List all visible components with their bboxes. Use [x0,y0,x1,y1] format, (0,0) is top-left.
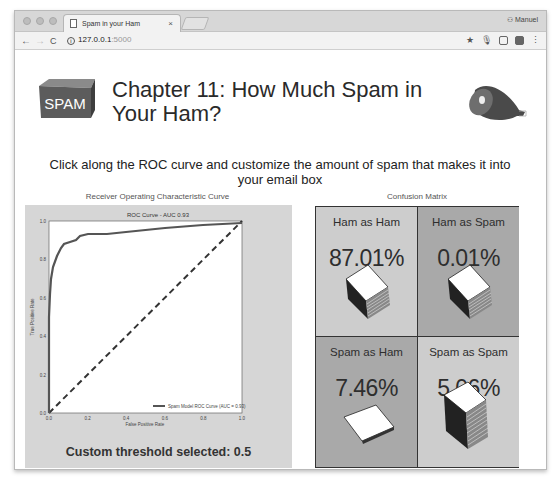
svg-text:False Positive Rate: False Positive Rate [126,422,165,427]
svg-text:0.6: 0.6 [162,416,169,421]
svg-text:0.6: 0.6 [40,296,47,301]
email-icon [316,337,418,467]
minimize-window-button[interactable] [36,17,44,25]
svg-text:0.0: 0.0 [46,416,53,421]
page-icon [70,19,77,28]
roc-caption: Receiver Operating Characteristic Curve [25,192,290,201]
email-stack-icon [316,207,418,337]
page-title: Chapter 11: How Much Spam in Your Ham? [112,78,442,126]
cell-ham-as-ham: Ham as Ham 87.01% [316,207,418,337]
forward-button[interactable]: → [35,35,45,46]
roc-chart[interactable]: ROC Curve - AUC 0.93 0.0 0.2 0.4 0.6 0.8… [25,205,292,440]
star-icon[interactable]: ★ [466,35,474,45]
tab-bar: Spam in your Ham × ⚇ Manuel [15,11,546,32]
cell-spam-as-spam: Spam as Spam 5.06% [418,337,519,467]
browser-toolbar: ← → C i127.0.0.1:5000 ★ 🎙︎ ⋮ [15,32,546,50]
ham-icon [467,80,527,124]
toolbar-icons: ★ 🎙︎ ⋮ [466,35,540,45]
instructions-text: Click along the ROC curve and customize … [45,157,515,187]
svg-text:ROC Curve - AUC 0.93: ROC Curve - AUC 0.93 [127,212,190,218]
info-icon[interactable]: i [67,37,75,45]
roc-panel[interactable]: ROC Curve - AUC 0.93 0.0 0.2 0.4 0.6 0.8… [25,205,292,468]
back-button[interactable]: ← [21,35,31,46]
extension-icon[interactable] [499,36,508,45]
browser-window: Spam in your Ham × ⚇ Manuel ← → C i127.0… [14,10,547,470]
maximize-window-button[interactable] [49,17,57,25]
close-window-button[interactable] [23,17,31,25]
profile-button[interactable]: ⚇ Manuel [507,16,538,24]
new-tab-button[interactable] [181,17,210,30]
svg-text:1.0: 1.0 [40,219,47,224]
threshold-label: Custom threshold selected: 0.5 [25,445,292,459]
legend-label: Spam Model ROC Curve (AUC = 0.93) [168,404,246,409]
url-port: :5000 [111,35,131,44]
svg-text:1.0: 1.0 [239,416,246,421]
confusion-matrix: Ham as Ham 87.01% Ham as Spam 0.01% [315,206,519,468]
confusion-matrix-caption: Confusion Matrix [315,192,519,201]
menu-icon[interactable]: ⋮ [531,35,540,45]
svg-text:0.2: 0.2 [40,373,47,378]
microphone-icon[interactable]: 🎙︎ [481,35,492,45]
page-content: SPAM Chapter 11: How Much Spam in Your H… [15,50,546,470]
email-stack-icon [418,207,519,337]
spam-logo-icon: SPAM [33,76,97,122]
tab-title: Spam in your Ham [82,20,140,27]
svg-text:0.4: 0.4 [123,416,130,421]
window-controls [23,17,57,25]
address-bar[interactable]: i127.0.0.1:5000 [67,35,131,45]
svg-text:0.4: 0.4 [40,334,47,339]
svg-text:0.8: 0.8 [40,257,47,262]
email-stack-icon [418,337,519,467]
svg-text:SPAM: SPAM [44,95,85,112]
cell-spam-as-ham: Spam as Ham 7.46% [316,337,418,467]
url-host: 127.0.0.1 [78,35,111,44]
close-tab-icon[interactable]: × [168,19,173,28]
svg-text:True Positive Rate: True Positive Rate [30,298,35,335]
svg-text:0.2: 0.2 [84,416,91,421]
reload-button[interactable]: C [50,36,57,46]
user-icon: ⚇ [507,16,515,23]
cell-ham-as-spam: Ham as Spam 0.01% [418,207,519,337]
tab-spam-in-your-ham[interactable]: Spam in your Ham × [63,14,181,33]
extension-icon[interactable] [515,36,524,45]
profile-name: Manuel [515,16,538,23]
svg-text:0.8: 0.8 [200,416,207,421]
